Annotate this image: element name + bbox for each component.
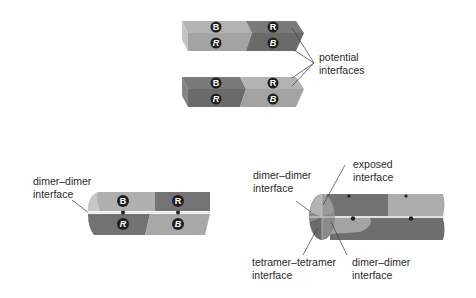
dimer-dimer-label: dimer–dimer: [33, 175, 92, 187]
badge-r: R: [268, 78, 279, 89]
svg-text:B: B: [270, 94, 277, 104]
svg-text:R: R: [175, 196, 182, 206]
badge-b: B: [268, 94, 279, 105]
diagram-canvas: B R R B B: [0, 0, 476, 298]
exposed-interface-label: interface: [353, 171, 393, 183]
top-panel: B R R B B: [182, 21, 365, 107]
potential-interfaces-label: potential: [319, 51, 359, 63]
potential-interfaces-label: interfaces: [319, 64, 365, 76]
badge-r: R: [268, 22, 279, 33]
svg-text:R: R: [213, 94, 220, 104]
bottom-left-panel: dimer–dimer interface B R R B: [33, 175, 210, 235]
svg-text:R: R: [270, 22, 277, 32]
svg-text:B: B: [175, 219, 182, 229]
dimer-dimer-bottom-label: dimer–dimer: [352, 256, 411, 268]
svg-text:B: B: [270, 38, 277, 48]
svg-text:R: R: [213, 38, 220, 48]
svg-text:R: R: [120, 219, 127, 229]
badge-b: B: [172, 218, 184, 230]
dimer-dimer-top-label: interface: [253, 182, 293, 194]
svg-text:B: B: [213, 78, 220, 88]
rod-2: B R R B: [182, 77, 304, 107]
dimer-dimer-bottom-label: interface: [352, 269, 392, 281]
svg-text:B: B: [213, 22, 220, 32]
bottom-right-panel: dimer–dimer interface exposed interface …: [252, 158, 445, 281]
badge-r: R: [172, 195, 184, 207]
badge-r: R: [211, 94, 222, 105]
badge-b: B: [211, 78, 222, 89]
exposed-interface-label: exposed: [353, 158, 393, 170]
badge-b: B: [268, 38, 279, 49]
tetramer-tetramer-label: interface: [252, 269, 292, 281]
rod-1: B R R B: [182, 21, 304, 51]
badge-b: B: [117, 195, 129, 207]
dimer-dimer-top-label: dimer–dimer: [253, 169, 312, 181]
tetramer-tetramer-label: tetramer–tetramer: [252, 256, 337, 268]
svg-text:B: B: [120, 196, 127, 206]
svg-text:R: R: [270, 78, 277, 88]
badge-b: B: [211, 22, 222, 33]
dimer-dimer-label: interface: [33, 188, 73, 200]
badge-r: R: [211, 38, 222, 49]
badge-r: R: [117, 218, 129, 230]
